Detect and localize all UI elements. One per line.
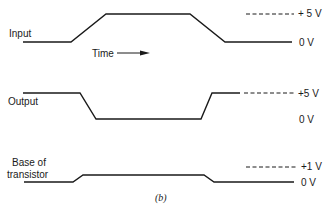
input-waveform <box>23 14 292 42</box>
input-high-label: + 5 V <box>298 8 322 19</box>
input-label: Input <box>9 28 31 39</box>
waveform-diagram <box>0 0 331 207</box>
base-label-line2: transistor <box>7 169 48 180</box>
base-label-line1: Base of <box>12 157 46 168</box>
figure-caption: (b) <box>155 192 167 203</box>
base-high-label: +1 V <box>301 161 322 172</box>
time-arrow-head <box>140 51 150 56</box>
input-low-label: 0 V <box>299 37 314 48</box>
output-high-label: +5 V <box>298 88 319 99</box>
base-waveform <box>24 175 294 182</box>
output-label: Output <box>8 96 38 107</box>
output-waveform <box>23 93 240 119</box>
base-low-label: 0 V <box>301 177 316 188</box>
output-low-label: 0 V <box>299 114 314 125</box>
time-label: Time <box>92 48 114 59</box>
